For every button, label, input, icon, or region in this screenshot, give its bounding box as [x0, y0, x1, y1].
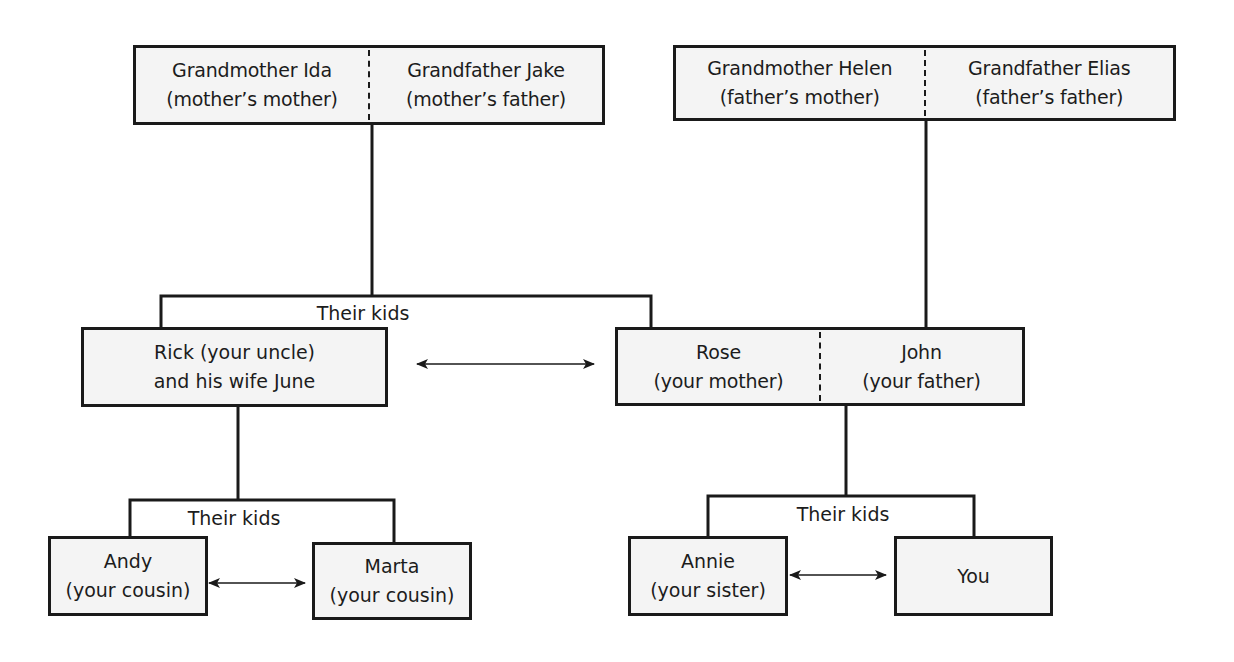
maternal-grandparents-box: Grandmother Ida (mother’s mother) Grandf…: [133, 45, 605, 125]
grandfather-elias-node: Grandfather Elias (father’s father): [926, 48, 1174, 118]
node-name: Grandmother Helen: [707, 54, 892, 83]
node-relation: (your cousin): [330, 581, 455, 610]
node-name: Annie: [681, 547, 735, 576]
node-relation: (your sister): [650, 576, 766, 605]
node-line-1: Rick (your uncle): [154, 338, 315, 367]
node-name: Rose: [696, 338, 741, 367]
node-line-2: and his wife June: [154, 367, 316, 396]
maternal-grandparents-connector: [161, 123, 651, 329]
node-relation: (your mother): [653, 367, 783, 396]
grandmother-ida-node: Grandmother Ida (mother’s mother): [136, 48, 368, 122]
grandparents-kids-label: Their kids: [317, 302, 410, 324]
father-john-node: John (your father): [821, 330, 1022, 403]
uncle-rick-node: Rick (your uncle) and his wife June: [84, 330, 385, 404]
node-relation: (mother’s mother): [166, 85, 338, 114]
node-name: Marta: [365, 552, 420, 581]
you-box: You: [894, 536, 1053, 616]
parents-box: Rose (your mother) John (your father): [615, 327, 1025, 406]
node-relation: (your cousin): [66, 576, 191, 605]
node-name: Grandmother Ida: [172, 56, 332, 85]
cousin-andy-box: Andy (your cousin): [48, 536, 208, 616]
family-tree-diagram: Grandmother Ida (mother’s mother) Grandf…: [0, 0, 1234, 662]
node-relation: (father’s mother): [720, 83, 880, 112]
grandmother-helen-node: Grandmother Helen (father’s mother): [676, 48, 924, 118]
node-name: You: [957, 562, 990, 591]
mother-rose-node: Rose (your mother): [618, 330, 819, 403]
parents-kids-label: Their kids: [797, 503, 890, 525]
node-name: Andy: [104, 547, 152, 576]
cousin-marta-node: Marta (your cousin): [315, 545, 469, 617]
sister-annie-node: Annie (your sister): [631, 539, 785, 613]
cousin-marta-box: Marta (your cousin): [312, 542, 472, 620]
node-name: Grandfather Jake: [407, 56, 565, 85]
node-relation: (mother’s father): [406, 85, 566, 114]
uncle-kids-label: Their kids: [188, 507, 281, 529]
paternal-grandparents-box: Grandmother Helen (father’s mother) Gran…: [673, 45, 1176, 121]
you-node: You: [897, 539, 1050, 613]
uncle-rick-box: Rick (your uncle) and his wife June: [81, 327, 388, 407]
cousin-andy-node: Andy (your cousin): [51, 539, 205, 613]
node-name: John: [901, 338, 942, 367]
node-relation: (father’s father): [975, 83, 1123, 112]
node-name: Grandfather Elias: [968, 54, 1130, 83]
grandfather-jake-node: Grandfather Jake (mother’s father): [370, 48, 602, 122]
sister-annie-box: Annie (your sister): [628, 536, 788, 616]
node-relation: (your father): [862, 367, 980, 396]
